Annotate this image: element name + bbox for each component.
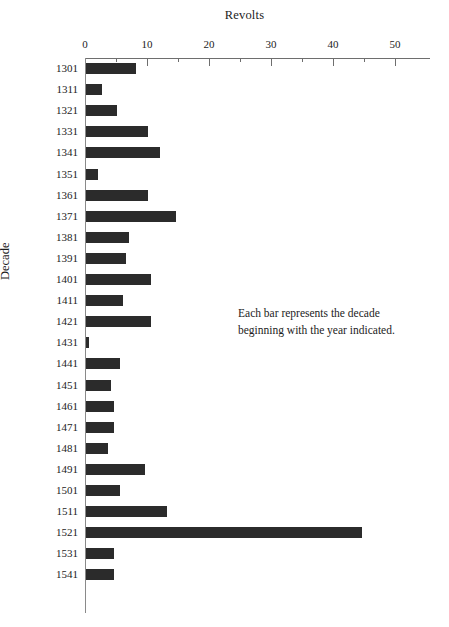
bar [86, 295, 123, 306]
bar [86, 253, 126, 264]
y-category-label: 1411 [2, 294, 78, 306]
y-category-label: 1501 [2, 484, 78, 496]
bar-row [85, 353, 430, 374]
bar-row [85, 79, 430, 100]
y-category-label: 1421 [2, 315, 78, 327]
y-category-label: 1511 [2, 505, 78, 517]
bar-row [85, 543, 430, 564]
bar-row [85, 185, 430, 206]
bar [86, 190, 148, 201]
y-category-label: 1491 [2, 463, 78, 475]
bar-row [85, 438, 430, 459]
annotation-line-1: Each bar represents the decade [238, 305, 443, 322]
bar-row [85, 206, 430, 227]
bar [86, 485, 120, 496]
y-category-label: 1301 [2, 62, 78, 74]
bar-row [85, 227, 430, 248]
bar [86, 527, 362, 538]
bar-row [85, 121, 430, 142]
bar-row [85, 417, 430, 438]
bar [86, 232, 129, 243]
y-category-label: 1391 [2, 252, 78, 264]
y-category-label: 1341 [2, 146, 78, 158]
bar-row [85, 248, 430, 269]
bar-row [85, 396, 430, 417]
bar [86, 380, 111, 391]
bar [86, 105, 117, 116]
y-category-label: 1311 [2, 83, 78, 95]
bar [86, 169, 98, 180]
bar-row [85, 564, 430, 585]
bar [86, 464, 145, 475]
bar [86, 358, 120, 369]
y-category-label: 1451 [2, 379, 78, 391]
x-tick-label: 20 [204, 38, 215, 50]
x-tick-label: 50 [390, 38, 401, 50]
bar-row [85, 480, 430, 501]
bar [86, 84, 102, 95]
bar [86, 506, 167, 517]
bar-row [85, 501, 430, 522]
bar [86, 422, 114, 433]
bar [86, 274, 151, 285]
y-category-label: 1461 [2, 400, 78, 412]
bar [86, 316, 151, 327]
bar [86, 443, 108, 454]
y-category-label: 1481 [2, 442, 78, 454]
bar [86, 548, 114, 559]
y-category-label: 1361 [2, 189, 78, 201]
y-category-label: 1521 [2, 526, 78, 538]
bar-row [85, 100, 430, 121]
bar [86, 569, 114, 580]
y-category-label: 1531 [2, 547, 78, 559]
bar [86, 337, 89, 348]
bar-row [85, 269, 430, 290]
annotation-note: Each bar represents the decade beginning… [238, 305, 443, 339]
bar-row [85, 522, 430, 543]
bar [86, 147, 160, 158]
y-category-label: 1331 [2, 125, 78, 137]
bar [86, 401, 114, 412]
x-tick-label: 10 [142, 38, 153, 50]
y-category-label: 1541 [2, 568, 78, 580]
y-category-label: 1371 [2, 210, 78, 222]
y-category-label: 1431 [2, 336, 78, 348]
y-category-label: 1321 [2, 104, 78, 116]
bar-row [85, 375, 430, 396]
bar [86, 126, 148, 137]
y-axis-title: Decade [0, 243, 13, 280]
chart-title: Revolts [0, 8, 449, 23]
y-axis-category-labels: 1301131113211331134113511361137113811391… [0, 58, 78, 613]
bar-row [85, 459, 430, 480]
bar [86, 63, 136, 74]
bar [86, 211, 176, 222]
bar-row [85, 164, 430, 185]
annotation-line-2: beginning with the year indicated. [238, 322, 443, 339]
y-category-label: 1471 [2, 421, 78, 433]
bar-row [85, 142, 430, 163]
y-category-label: 1401 [2, 273, 78, 285]
y-category-label: 1381 [2, 231, 78, 243]
x-tick-label: 0 [82, 38, 88, 50]
x-tick-label: 40 [328, 38, 339, 50]
y-category-label: 1351 [2, 168, 78, 180]
chart-container: Revolts 01020304050 13011311132113311341… [0, 0, 449, 627]
chart-title-text: Revolts [225, 8, 265, 22]
x-tick-label: 30 [266, 38, 277, 50]
y-category-label: 1441 [2, 357, 78, 369]
bar-row [85, 58, 430, 79]
